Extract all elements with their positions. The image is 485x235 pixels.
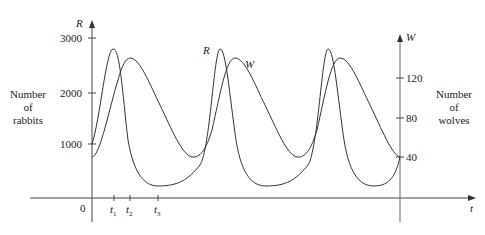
left-axis-title: Number of rabbits: [2, 88, 54, 127]
left-tick-2000: 2000: [60, 87, 82, 99]
r-axis-label: R: [76, 17, 83, 29]
right-tick-40: 40: [406, 151, 417, 163]
x-tick-t3: t3: [154, 203, 161, 218]
w-axis-label: W: [406, 31, 415, 43]
x-tick-t2: t2: [126, 203, 133, 218]
right-tick-120: 120: [406, 72, 423, 84]
x-tick-t1: t1: [110, 203, 117, 218]
x-axis-arrow-icon: [468, 195, 476, 201]
left-axis-arrow-icon: [89, 20, 95, 28]
left-tick-3000: 3000: [60, 32, 82, 44]
t-axis-label: t: [470, 202, 473, 214]
origin-label: 0: [80, 202, 86, 214]
right-axis-arrow-icon: [397, 34, 403, 42]
right-axis-title: Number of wolves: [428, 88, 480, 127]
right-tick-80: 80: [406, 112, 417, 124]
w-curve-label: W: [245, 58, 254, 70]
r-curve-label: R: [203, 44, 210, 56]
left-tick-1000: 1000: [60, 138, 82, 150]
wolf-curve: [92, 58, 400, 157]
